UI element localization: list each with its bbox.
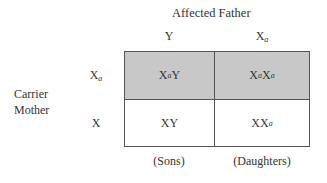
- footer-daughters: (Daughters): [217, 154, 307, 169]
- mother-label-line2: Mother: [14, 102, 49, 118]
- mother-allele-xa: Xa: [86, 68, 106, 83]
- father-title: Affected Father: [172, 6, 251, 21]
- father-allele-xa: Xa: [217, 29, 307, 44]
- cell-xxa: XXa: [215, 100, 309, 146]
- footer-sons: (Sons): [124, 154, 214, 169]
- mother-label: Carrier Mother: [14, 86, 49, 118]
- cell-xaxa: XaXa: [215, 52, 309, 100]
- punnett-square: XaY XaXa XY XXa: [124, 51, 310, 147]
- cell-xy: XY: [125, 100, 215, 146]
- cell-xay: XaY: [125, 52, 215, 100]
- mother-allele-x: X: [86, 116, 106, 131]
- father-allele-y: Y: [124, 29, 214, 44]
- mother-label-line1: Carrier: [14, 86, 49, 102]
